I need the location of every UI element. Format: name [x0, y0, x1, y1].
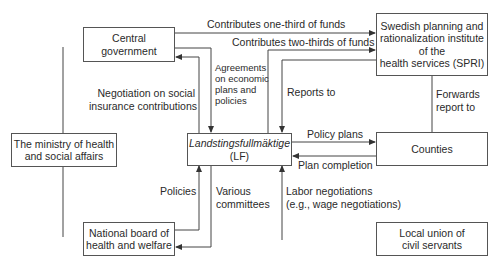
label-text: Labor negotiations — [286, 185, 401, 198]
label-text: on economic — [215, 73, 269, 84]
label-plan-completion: Plan completion — [298, 159, 373, 172]
node-text: health services (SPRI) — [380, 57, 484, 70]
node-text: The ministry of health — [14, 138, 114, 151]
label-one-third: Contributes one-third of funds — [207, 18, 345, 31]
node-text: and social affairs — [14, 150, 114, 163]
node-text: Swedish planning and — [380, 20, 484, 33]
node-spri: Swedish planning andrationalization inst… — [376, 13, 488, 76]
label-policy-plans: Policy plans — [307, 128, 363, 141]
node-national-board: National board ofhealth and welfare — [83, 222, 175, 256]
node-text: Local union of — [399, 227, 464, 240]
node-lf: Landstingsfullmäktige(LF) — [187, 133, 292, 166]
node-text: Landstingsfullmäktige — [189, 137, 290, 150]
label-text: report to — [436, 101, 480, 114]
node-text: of the — [380, 45, 484, 58]
label-policies: Policies — [160, 185, 196, 198]
label-reports-to: Reports to — [287, 86, 335, 99]
label-text: plans and — [215, 84, 269, 95]
node-ministry: The ministry of healthand social affairs — [11, 133, 117, 167]
label-agreements: Agreements on economic plans and policie… — [215, 62, 269, 106]
node-text: Central — [101, 32, 156, 45]
label-text: Agreements — [215, 62, 269, 73]
label-text: Various — [216, 185, 270, 198]
label-text: policies — [215, 95, 269, 106]
node-text: Counties — [411, 143, 452, 156]
label-labor: Labor negotiations (e.g., wage negotiati… — [286, 185, 401, 210]
node-text: government — [101, 45, 156, 58]
node-text: (LF) — [189, 150, 290, 163]
label-committees: Various committees — [216, 185, 270, 210]
node-text: National board of — [86, 227, 172, 240]
node-local-union: Local union ofcivil servants — [376, 222, 488, 256]
label-forwards: Forwards report to — [436, 88, 480, 113]
label-text: committees — [216, 198, 270, 211]
node-text: health and welfare — [86, 239, 172, 252]
edge-policies — [175, 166, 199, 230]
label-text: (e.g., wage negotiations) — [286, 198, 401, 211]
edge-committees — [176, 166, 211, 247]
label-two-thirds: Contributes two-thirds of funds — [232, 36, 374, 49]
label-text: Forwards — [436, 88, 480, 101]
label-text: Negotiation on social — [89, 87, 195, 100]
node-text: rationalization institute — [380, 32, 484, 45]
label-text: insurance contributions — [89, 100, 195, 113]
node-text: civil servants — [399, 239, 464, 252]
node-counties: Counties — [376, 132, 488, 166]
label-negotiation: Negotiation on social insurance contribu… — [89, 87, 195, 112]
node-central-government: Centralgovernment — [83, 27, 175, 62]
